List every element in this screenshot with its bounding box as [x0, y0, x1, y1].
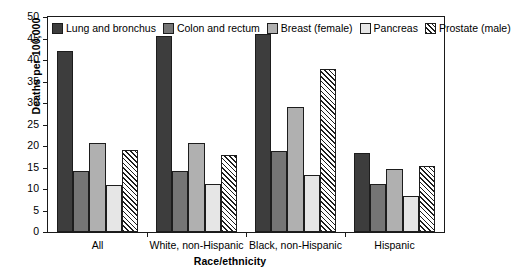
- bar: [386, 169, 402, 232]
- legend-label: Prostate (male): [439, 23, 511, 34]
- y-axis-tick-label: 25: [27, 118, 39, 131]
- bar-group: [246, 17, 345, 232]
- y-axis-tick-label: 15: [27, 161, 39, 174]
- bar-group: [345, 17, 444, 232]
- legend-swatch-icon: [425, 23, 436, 34]
- legend-item: Lung and bronchus: [52, 23, 156, 34]
- legend-label: Colon and rectum: [177, 23, 260, 34]
- legend-item: Colon and rectum: [163, 23, 260, 34]
- legend-swatch-icon: [360, 23, 371, 34]
- bar: [188, 143, 204, 232]
- bar: [403, 196, 419, 232]
- x-axis-title: Race/ethnicity: [0, 255, 460, 267]
- y-axis-tick-label: 45: [27, 32, 39, 45]
- bar: [287, 107, 303, 232]
- bar: [354, 153, 370, 232]
- bar: [57, 51, 73, 232]
- bar: [205, 184, 221, 232]
- y-axis-tick-label: 20: [27, 139, 39, 152]
- bar: [304, 175, 320, 232]
- chart-legend: Lung and bronchusColon and rectumBreast …: [52, 20, 515, 37]
- bar: [89, 143, 105, 232]
- legend-label: Breast (female): [281, 23, 353, 34]
- bar: [122, 150, 138, 232]
- legend-label: Pancreas: [374, 23, 418, 34]
- bar-group: [147, 17, 246, 232]
- bar: [255, 34, 271, 232]
- bar: [320, 69, 336, 232]
- y-axis-tick-label: 0: [33, 225, 39, 238]
- x-axis-tick-label: Hispanic: [374, 239, 414, 251]
- y-axis-tick-label: 35: [27, 75, 39, 88]
- x-axis-tick-mark: [147, 233, 148, 237]
- bar-group: [48, 17, 147, 232]
- legend-swatch-icon: [267, 23, 278, 34]
- y-axis-tick-label: 5: [33, 204, 39, 217]
- bar: [73, 171, 89, 232]
- bar: [156, 36, 172, 232]
- x-axis-tick-mark: [345, 233, 346, 237]
- bars-area: [48, 17, 444, 232]
- x-axis-tick-mark: [246, 233, 247, 237]
- bar: [419, 166, 435, 232]
- legend-item: Prostate (male): [425, 23, 511, 34]
- y-axis-tick-label: 50: [27, 10, 39, 23]
- bar: [221, 155, 237, 232]
- x-axis-tick-label: White, non-Hispanic: [150, 239, 244, 251]
- y-axis-tick-label: 10: [27, 182, 39, 195]
- legend-item: Pancreas: [360, 23, 418, 34]
- legend-swatch-icon: [52, 23, 63, 34]
- legend-label: Lung and bronchus: [66, 23, 156, 34]
- y-axis-tick-label: 40: [27, 53, 39, 66]
- legend-swatch-icon: [163, 23, 174, 34]
- bar: [271, 151, 287, 232]
- x-axis-tick-label: Black, non-Hispanic: [249, 239, 342, 251]
- bar: [106, 185, 122, 232]
- bar: [370, 184, 386, 232]
- x-axis-tick-label: All: [92, 239, 104, 251]
- bar: [172, 171, 188, 232]
- y-axis-tick-label: 30: [27, 96, 39, 109]
- legend-item: Breast (female): [267, 23, 353, 34]
